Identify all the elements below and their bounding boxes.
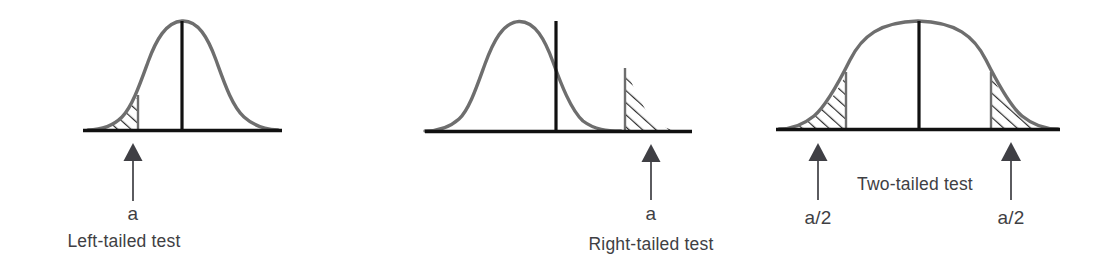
panel-left-tailed: a Left-tailed test <box>0 0 363 263</box>
alpha-label-right: a/2 <box>997 207 1024 228</box>
panel-two-tailed: a/2 a/2 Two-tailed test <box>726 0 1093 263</box>
alpha-label-left: a/2 <box>804 207 831 228</box>
rejection-region-right <box>984 60 1069 135</box>
alpha-label: a <box>646 203 657 224</box>
alpha-arrow-left <box>809 143 828 200</box>
alpha-arrow-right <box>1001 142 1021 200</box>
panel-right-tailed: a Right-tailed test <box>363 0 726 263</box>
normal-curve <box>425 21 621 131</box>
alpha-label: a <box>128 203 139 224</box>
statistics-tails-figure: a Left-tailed test a R <box>0 0 1093 263</box>
panel-caption: Right-tailed test <box>589 234 714 254</box>
panel-caption: Left-tailed test <box>67 231 180 251</box>
alpha-arrow <box>124 143 143 201</box>
panel-caption: Two-tailed test <box>857 174 973 194</box>
alpha-arrow <box>642 144 661 200</box>
rejection-region-right <box>618 60 698 135</box>
